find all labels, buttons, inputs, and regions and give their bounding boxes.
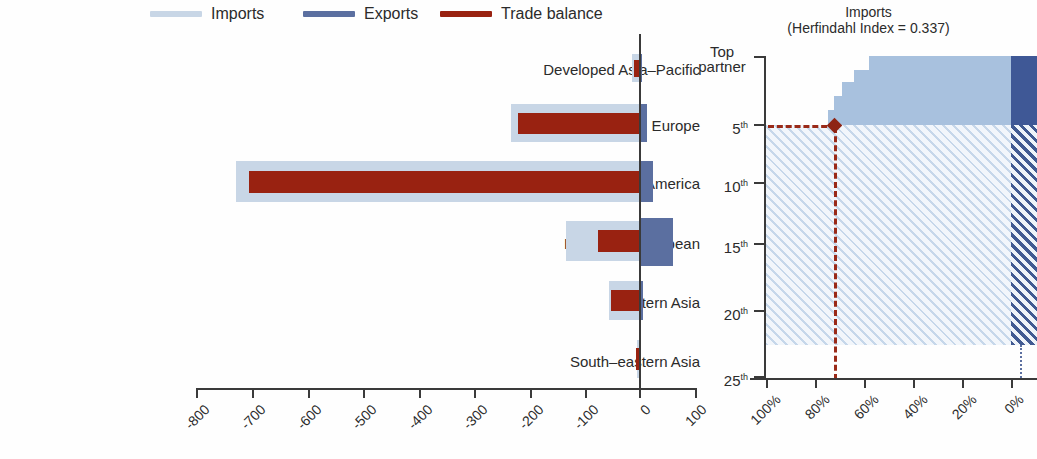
x-tick-neg600 — [308, 389, 310, 398]
right-chart-y-axis — [764, 56, 766, 378]
y-ticklabel-20th-value: 20 — [724, 306, 741, 323]
category-label-developed-asia-pacific: Developed Asia–Pacific — [492, 62, 700, 77]
y-ticklabel-10th-value: 10 — [724, 178, 741, 195]
x-ticklabel-neg100: -100 — [554, 402, 601, 449]
y-tick-20th — [754, 310, 764, 312]
x-tick-80pct — [815, 379, 817, 388]
exports-share-band — [1011, 56, 1037, 125]
x-ticklabel-0: 0 — [613, 402, 653, 442]
x-tick-neg400 — [419, 389, 421, 398]
x-ticklabel-100pct: 100% — [731, 392, 783, 444]
right-chart-title-line2: (Herfindahl Index = 0.337) — [700, 20, 1037, 36]
x-ticklabel-neg600: -600 — [277, 402, 324, 449]
y-tick-top-partner — [754, 56, 764, 58]
x-ticklabel-neg700: -700 — [221, 402, 268, 449]
x-ticklabel-0pct: 0% — [982, 392, 1026, 436]
right-chart-title-line1: Imports — [845, 4, 892, 20]
x-ticklabel-60pct: 60% — [833, 392, 881, 440]
x-ticklabel-neg800: -800 — [165, 402, 212, 449]
y-tick-15th — [754, 243, 764, 245]
bar-exports-developed-europe — [640, 104, 647, 142]
x-ticklabel-80pct: 80% — [784, 392, 832, 440]
trade-by-region-chart: Developed Asia–Pacific Developed Europe … — [0, 0, 700, 459]
bar-balance-latin-am-caribbean — [598, 230, 640, 252]
x-tick-0 — [639, 389, 641, 398]
marker-vertical-line — [834, 127, 837, 380]
x-ticklabel-neg200: -200 — [499, 402, 546, 449]
x-tick-neg500 — [363, 389, 365, 398]
x-ticklabel-neg400: -400 — [388, 402, 435, 449]
bar-balance-eastern-asia — [611, 290, 640, 311]
left-chart-x-axis — [196, 388, 697, 390]
y-ticklabel-10th: 10th — [700, 176, 748, 194]
right-chart-plot-area — [766, 56, 1037, 345]
x-tick-60pct — [864, 379, 866, 388]
y-axis-top-partner-label: Top partner — [692, 44, 752, 74]
category-label-south-eastern-asia: South–eastern Asia — [492, 354, 700, 369]
bar-exports-developed-n-america — [640, 161, 653, 202]
x-ticklabel-neg500: -500 — [332, 402, 379, 449]
cumulative-step-rank5 — [828, 110, 1011, 125]
y-ticklabel-5th-suffix: th — [740, 120, 748, 130]
x-tick-neg800 — [196, 389, 198, 398]
zero-reference-line — [639, 34, 641, 389]
x-tick-40pct — [913, 379, 915, 388]
y-ticklabel-25th-suffix: th — [740, 372, 748, 382]
y-tick-25th — [754, 376, 764, 378]
y-ticklabel-10th-suffix: th — [740, 178, 748, 188]
y-ticklabel-20th-suffix: th — [740, 306, 748, 316]
y-ticklabel-15th-value: 15 — [724, 239, 741, 256]
y-ticklabel-15th-suffix: th — [740, 239, 748, 249]
bar-balance-developed-europe — [518, 113, 640, 134]
y-ticklabel-5th: 5th — [700, 118, 748, 136]
x-tick-neg200 — [530, 389, 532, 398]
y-tick-10th — [754, 182, 764, 184]
exports-share-hatched-band — [1011, 125, 1037, 345]
x-tick-neg700 — [252, 389, 254, 398]
y-ticklabel-20th: 20th — [700, 304, 748, 322]
x-ticklabel-40pct: 40% — [882, 392, 930, 440]
bar-exports-latin-am-caribbean — [640, 218, 673, 266]
cumulative-hatched-region — [766, 125, 1011, 345]
x-tick-0pct — [1011, 379, 1013, 388]
y-tick-5th — [754, 124, 764, 126]
y-ticklabel-25th: 25th — [700, 370, 748, 388]
imports-concentration-chart: Imports (Herfindahl Index = 0.337) Top p… — [700, 0, 1037, 459]
x-tick-20pct — [962, 379, 964, 388]
y-ticklabel-15th: 15th — [700, 237, 748, 255]
y-ticklabel-25th-value: 25 — [724, 372, 741, 389]
category-label-eastern-asia: Eastern Asia — [492, 295, 700, 310]
x-tick-neg100 — [585, 389, 587, 398]
right-chart-title: Imports (Herfindahl Index = 0.337) — [700, 4, 1037, 36]
top-partner-line2: partner — [698, 58, 746, 75]
x-tick-100 — [695, 389, 697, 398]
x-ticklabel-neg300: -300 — [443, 402, 490, 449]
x-tick-neg300 — [474, 389, 476, 398]
x-tick-100pct — [766, 379, 768, 388]
bar-balance-developed-n-america — [249, 171, 640, 193]
x-ticklabel-20pct: 20% — [931, 392, 979, 440]
right-chart-x-axis — [750, 378, 1037, 380]
band-dotted-continuation — [1020, 345, 1022, 378]
